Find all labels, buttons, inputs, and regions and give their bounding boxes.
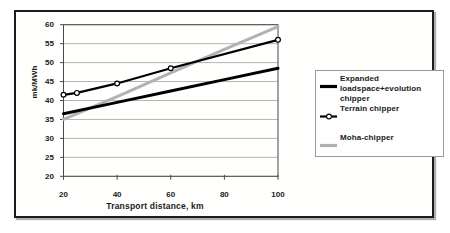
x-tick-label-20: 20 [49,190,79,199]
y-tick-label-20: 20 [28,172,54,181]
data-point-marker [115,81,120,86]
x-tick-label-80: 80 [209,190,239,199]
x-tick-label-60: 60 [156,190,186,199]
series-line-0 [64,68,279,113]
y-tick-label-30: 30 [28,134,54,143]
y-tick-label-25: 25 [28,153,54,162]
y-tick-label-35: 35 [28,115,54,124]
x-tick-label-40: 40 [102,190,132,199]
chart-figure: Expanded loadspace+evolution chipper Ter… [0,0,450,233]
x-axis-title: Transport distance, km [65,201,245,211]
y-tick-label-60: 60 [28,20,54,29]
data-point-marker [168,66,173,71]
y-tick-label-40: 40 [28,96,54,105]
data-point-marker [75,91,80,96]
x-tick-label-100: 100 [263,190,293,199]
y-tick-label-45: 45 [28,77,54,86]
data-point-marker [276,37,281,42]
y-tick-label-55: 55 [28,39,54,48]
data-point-marker [61,92,66,97]
y-tick-label-50: 50 [28,58,54,67]
